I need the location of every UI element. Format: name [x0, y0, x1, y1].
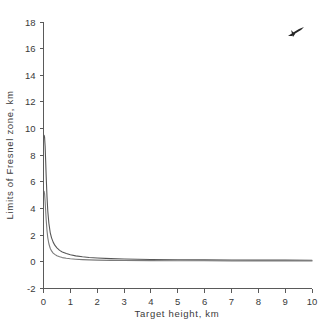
x-axis-title: Target height, km [135, 308, 220, 319]
x-tick-label: 3 [121, 296, 126, 307]
plot-area [43, 22, 312, 288]
y-tick-label: 12 [25, 96, 36, 107]
y-axis-title: Limits of Fresnel zone, km [4, 90, 15, 219]
x-tick-label: 6 [202, 296, 207, 307]
x-tick-label: 8 [256, 296, 261, 307]
y-tick-label: 4 [30, 203, 35, 214]
y-tick-label: 0 [30, 256, 35, 267]
chart-svg: 012345678910 -2024681012141618 Target he… [0, 0, 325, 326]
x-tick-label: 0 [41, 296, 46, 307]
y-tick-label: 6 [30, 176, 35, 187]
y-tick-label: 16 [25, 43, 36, 54]
x-tick-label: 4 [148, 296, 153, 307]
x-tick-label: 1 [68, 296, 73, 307]
y-tick-label: 2 [30, 230, 35, 241]
x-tick-label: 7 [229, 296, 234, 307]
y-tick-label: 14 [25, 70, 36, 81]
y-tick-label: 8 [30, 150, 35, 161]
y-tick-label: 10 [25, 123, 36, 134]
x-tick-label: 9 [283, 296, 288, 307]
x-tick-label: 2 [95, 296, 100, 307]
y-tick-label: -2 [27, 283, 35, 294]
y-tick-label: 18 [25, 17, 36, 28]
x-tick-label: 10 [307, 296, 318, 307]
x-tick-label: 5 [175, 296, 180, 307]
chart-figure: 012345678910 -2024681012141618 Target he… [0, 0, 325, 326]
